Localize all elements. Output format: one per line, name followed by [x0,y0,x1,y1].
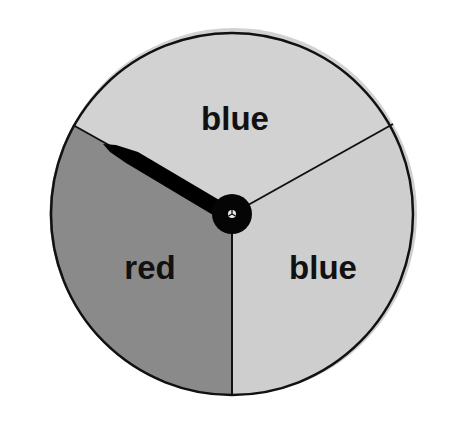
sector-label-right: blue [289,249,357,286]
pivot-screw-icon [228,210,236,218]
spinner-diagram: blue blue red [0,0,453,430]
sector-label-left: red [124,249,175,286]
sector-label-top: blue [201,100,269,137]
